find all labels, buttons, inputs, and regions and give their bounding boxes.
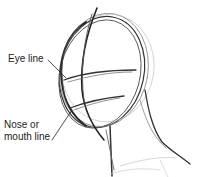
nose-mouth-label-line2: mouth line (4, 131, 50, 143)
nose-line-leader (52, 110, 72, 140)
neck-right (145, 90, 190, 164)
eye-line-label: Eye line (8, 53, 44, 65)
nose-mouth-label: Nose or mouth line (4, 119, 50, 143)
nose-mouth-line (70, 96, 124, 108)
head-sketch-drawing (0, 0, 198, 177)
nose-mouth-label-line1: Nose or (4, 119, 50, 131)
head-sketch-diagram: Eye line Nose or mouth line (0, 0, 198, 177)
eye-line-leader (48, 60, 66, 78)
